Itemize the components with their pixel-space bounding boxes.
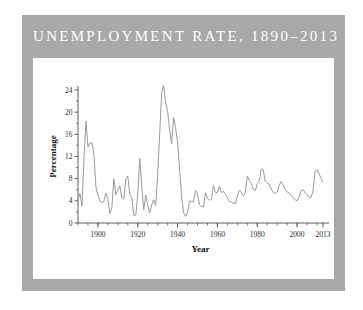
x-axis-title: Year: [192, 244, 210, 254]
x-tick-label: 2000: [290, 230, 305, 239]
plot-panel: 048121620241900192019401960198020002013Y…: [33, 58, 334, 279]
x-tick-label: 1960: [210, 230, 225, 239]
y-tick-label: 20: [65, 108, 73, 117]
y-tick-label: 4: [69, 196, 73, 205]
y-tick-label: 24: [65, 86, 73, 95]
x-tick-label: 1940: [170, 230, 185, 239]
y-tick-label: 16: [65, 130, 73, 139]
unemployment-line-chart: 048121620241900192019401960198020002013Y…: [33, 58, 334, 279]
y-tick-label: 8: [69, 174, 73, 183]
y-tick-label: 0: [69, 219, 73, 228]
x-tick-label: 1980: [250, 230, 265, 239]
title-band: UNEMPLOYMENT RATE, 1890–2013: [22, 15, 345, 58]
x-tick-label: 1900: [90, 230, 105, 239]
x-tick-label: 1920: [130, 230, 145, 239]
y-tick-label: 12: [65, 152, 73, 161]
figure-frame: UNEMPLOYMENT RATE, 1890–2013 04812162024…: [22, 15, 345, 291]
y-axis-title: Percentage: [48, 135, 58, 177]
x-tick-label: 2013: [316, 230, 331, 239]
chart-figure: UNEMPLOYMENT RATE, 1890–2013 04812162024…: [0, 0, 363, 310]
page-title: UNEMPLOYMENT RATE, 1890–2013: [22, 29, 339, 44]
unemployment-data-line: [78, 85, 323, 216]
